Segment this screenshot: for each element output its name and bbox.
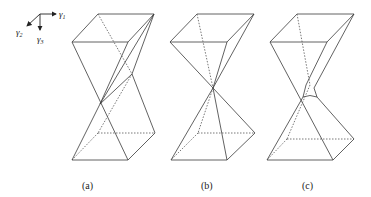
- axis-label-gamma2: γ2: [16, 27, 23, 38]
- figure-canvas: γ1 γ2 γ3: [0, 0, 371, 197]
- panel-c-double-pyramid: [267, 14, 354, 160]
- caption-c: (c): [302, 180, 313, 192]
- axis-label-gamma1: γ1: [59, 9, 66, 20]
- axis-legend: γ1 γ2 γ3: [16, 9, 66, 45]
- caption-a: (a): [82, 180, 93, 192]
- caption-b: (b): [201, 180, 213, 192]
- panel-b-double-pyramid: [170, 14, 255, 160]
- panel-a-double-pyramid: [72, 14, 155, 160]
- axis-label-gamma3: γ3: [37, 34, 44, 45]
- gamma2-arrow-icon: [27, 14, 40, 26]
